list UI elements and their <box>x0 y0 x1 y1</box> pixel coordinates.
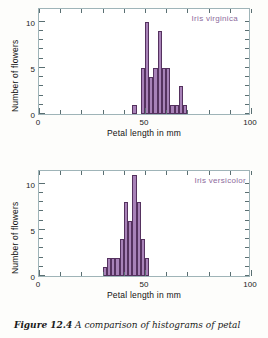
x-tick <box>209 272 210 276</box>
x-tick-label: 0 <box>36 118 40 127</box>
y-tick-label: 5 <box>23 64 35 73</box>
figure-12-4: Number of flowers 050100 0510 Petal leng… <box>0 0 268 338</box>
x-tick-label: 100 <box>243 280 256 289</box>
y-tick-right <box>245 210 249 211</box>
x-axis-title-versicolor: Petal length in mm <box>38 290 250 300</box>
y-tick-right <box>245 257 249 258</box>
y-tick-right <box>245 85 249 86</box>
y-tick <box>39 220 43 221</box>
plot-area-versicolor <box>38 170 250 277</box>
x-tick-top <box>166 171 167 175</box>
x-tick-label: 100 <box>243 118 256 127</box>
y-tick <box>39 95 43 96</box>
y-tick <box>39 21 45 22</box>
x-tick-top <box>251 171 252 175</box>
caption-text: A comparison of histograms of petal <box>75 320 240 330</box>
y-tick-right <box>245 192 249 193</box>
y-tick <box>39 76 43 77</box>
x-tick-top <box>103 171 104 175</box>
y-tick <box>39 247 43 248</box>
y-tick-right <box>245 67 249 68</box>
x-tick-top <box>145 9 146 13</box>
x-tick <box>60 110 61 114</box>
y-tick-right <box>245 58 249 59</box>
y-tick-right <box>245 39 249 40</box>
histogram-panel-virginica: Number of flowers 050100 0510 Petal leng… <box>0 0 268 152</box>
y-tick-label: 10 <box>23 18 35 27</box>
y-tick-right <box>245 201 249 202</box>
x-tick-top <box>81 171 82 175</box>
x-tick-top <box>145 171 146 175</box>
x-tick <box>145 270 146 276</box>
y-tick-label: 0 <box>23 273 35 282</box>
x-tick-top <box>230 9 231 13</box>
x-tick <box>60 272 61 276</box>
x-axis-title-virginica: Petal length in mm <box>38 128 250 138</box>
y-tick <box>39 266 43 267</box>
y-tick <box>39 229 45 230</box>
x-tick <box>81 110 82 114</box>
x-tick-top <box>124 171 125 175</box>
x-tick <box>187 272 188 276</box>
y-tick-right <box>245 220 249 221</box>
y-tick <box>39 104 43 105</box>
x-tick <box>230 110 231 114</box>
x-tick-top <box>60 171 61 175</box>
x-tick-top <box>39 171 40 175</box>
figure-caption: Figure 12.4 A comparison of histograms o… <box>14 320 264 330</box>
y-tick <box>39 30 43 31</box>
x-tick-top <box>209 9 210 13</box>
x-tick-top <box>187 9 188 13</box>
y-tick-right <box>245 266 249 267</box>
x-tick-top <box>81 9 82 13</box>
x-tick <box>145 108 146 114</box>
x-tick <box>230 272 231 276</box>
x-tick-top <box>251 9 252 13</box>
x-tick-top <box>60 9 61 13</box>
x-tick <box>209 110 210 114</box>
y-tick-label: 5 <box>23 226 35 235</box>
x-tick <box>166 110 167 114</box>
x-tick <box>251 270 252 276</box>
bars-versicolor <box>39 171 249 276</box>
y-tick-right <box>245 229 249 230</box>
x-tick-top <box>166 9 167 13</box>
y-tick-label: 0 <box>23 111 35 120</box>
y-tick-right <box>245 247 249 248</box>
x-tick <box>103 272 104 276</box>
y-tick-label: 10 <box>23 180 35 189</box>
x-tick-top <box>187 171 188 175</box>
y-tick <box>39 48 43 49</box>
y-tick-right <box>245 30 249 31</box>
x-tick <box>103 110 104 114</box>
histogram-bar <box>132 105 136 114</box>
y-tick <box>39 58 43 59</box>
y-tick <box>39 85 43 86</box>
y-tick-right <box>245 104 249 105</box>
x-tick <box>251 108 252 114</box>
series-label-virginica: Iris virginica <box>192 14 238 23</box>
histogram-panel-versicolor: Number of flowers 050100 0510 Petal leng… <box>0 162 268 314</box>
y-tick <box>39 275 45 276</box>
y-tick-right <box>245 76 249 77</box>
y-tick-right <box>245 238 249 239</box>
x-tick-top <box>230 171 231 175</box>
x-tick-label: 50 <box>140 280 149 289</box>
y-tick <box>39 192 43 193</box>
y-tick <box>39 238 43 239</box>
caption-label: Figure 12.4 <box>14 320 72 330</box>
y-tick-right <box>245 48 249 49</box>
y-axis-title-virginica: Number of flowers <box>10 40 20 112</box>
y-tick <box>39 201 43 202</box>
series-label-versicolor: Iris versicolor <box>194 176 246 185</box>
x-tick <box>187 110 188 114</box>
y-tick <box>39 210 43 211</box>
y-tick-right <box>245 21 249 22</box>
x-tick-label: 50 <box>140 118 149 127</box>
y-tick <box>39 113 45 114</box>
y-tick-right <box>245 113 249 114</box>
y-axis-title-versicolor: Number of flowers <box>10 202 20 274</box>
y-tick-right <box>245 275 249 276</box>
x-tick-label: 0 <box>36 280 40 289</box>
y-tick <box>39 67 45 68</box>
